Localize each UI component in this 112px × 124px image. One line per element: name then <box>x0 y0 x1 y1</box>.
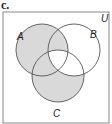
set-b-label: B <box>90 29 97 40</box>
set-a-label: A <box>16 31 24 42</box>
set-c-label: C <box>53 108 61 119</box>
universe-label: U <box>101 13 109 24</box>
venn-diagram: U A B C <box>0 0 112 124</box>
